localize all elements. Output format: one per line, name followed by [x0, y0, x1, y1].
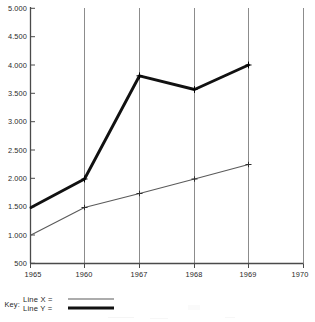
y-tick-label-2500: 2.500 [8, 146, 27, 155]
x-tick-label-1969: 1969 [240, 270, 257, 279]
x-tick-label-1970: 1970 [292, 270, 309, 279]
x-tick-label-1967: 1967 [131, 270, 148, 279]
y-tick-label-4500: 4.500 [8, 32, 27, 41]
y-tick-label-1500: 1.500 [8, 202, 27, 211]
chart-canvas: 5.000 4.500 4.000 3.500 3.000 2.500 2.00… [0, 0, 315, 322]
y-tick-label-2000: 2.000 [8, 174, 27, 183]
x-tick-label-1968: 1968 [186, 270, 203, 279]
x-tick-label-1960: 1960 [76, 270, 93, 279]
y-tick-label-3000: 3.000 [8, 117, 27, 126]
line-chart-figure: 5.000 4.500 4.000 3.500 3.000 2.500 2.00… [0, 0, 315, 322]
y-tick-label-4000: 4.000 [8, 61, 27, 70]
y-tick-label-500: 500 [14, 259, 27, 268]
y-tick-label-3500: 3.500 [8, 89, 27, 98]
key-title: Key: [4, 300, 20, 309]
y-tick-label-1000: 1.000 [8, 231, 27, 240]
x-tick-label-1965: 1965 [25, 270, 42, 279]
y-tick-label-5000: 5.000 [8, 4, 27, 13]
chart-background [0, 0, 315, 322]
key-entry-label-line-y: Line Y = [23, 304, 53, 313]
key-entry-label-line-x: Line X = [23, 295, 53, 304]
